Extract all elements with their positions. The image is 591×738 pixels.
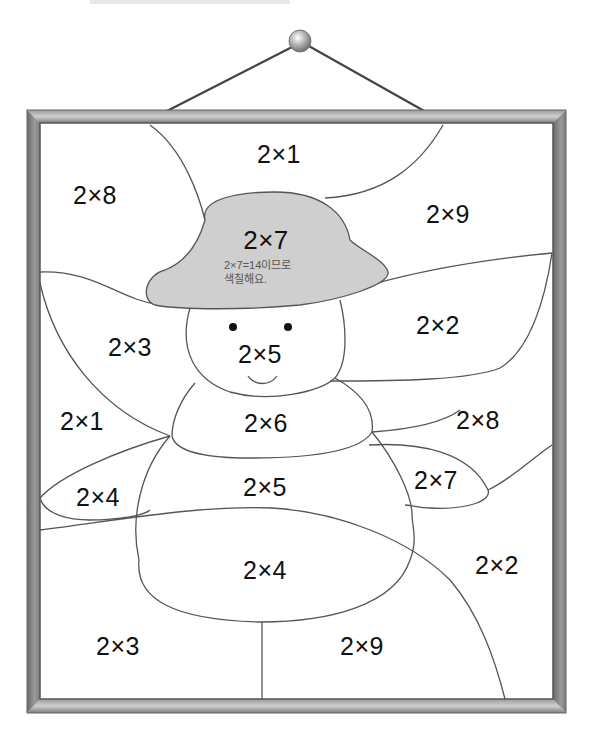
region-label-top-center[interactable]: 2×1 xyxy=(257,140,301,169)
region-label-right-lower[interactable]: 2×2 xyxy=(475,551,519,580)
region-label-right-mid[interactable]: 2×8 xyxy=(456,406,500,435)
picture-artwork xyxy=(0,0,591,738)
region-label-top-right[interactable]: 2×9 xyxy=(426,200,470,229)
hanger xyxy=(165,30,426,112)
left-eye-icon xyxy=(229,323,237,331)
right-eye-icon xyxy=(284,323,292,331)
region-label-left-arm-upper[interactable]: 2×3 xyxy=(108,333,152,362)
region-label-left-mid[interactable]: 2×1 xyxy=(60,407,104,436)
hat-region-label[interactable]: 2×7 xyxy=(243,225,289,256)
region-label-right-upper[interactable]: 2×2 xyxy=(416,311,460,340)
hat-hint-line-2: 색칠해요. xyxy=(224,272,267,286)
region-label-face[interactable]: 2×5 xyxy=(238,340,282,369)
region-label-top-left[interactable]: 2×8 xyxy=(73,181,117,210)
region-label-left-hand[interactable]: 2×4 xyxy=(76,483,120,512)
coloring-puzzle: 2×1 2×8 2×9 2×3 2×5 2×2 2×1 2×6 2×8 2×4 … xyxy=(0,0,591,738)
region-label-body-upper[interactable]: 2×5 xyxy=(243,473,287,502)
pin-icon xyxy=(289,30,311,52)
region-label-right-hand[interactable]: 2×7 xyxy=(414,466,458,495)
region-label-body-lower[interactable]: 2×4 xyxy=(243,556,287,585)
region-label-bottom-left[interactable]: 2×3 xyxy=(96,632,140,661)
hat-hint-line-1: 2×7=14이므로 xyxy=(224,258,291,272)
region-label-neck[interactable]: 2×6 xyxy=(244,409,288,438)
region-label-bottom-right[interactable]: 2×9 xyxy=(340,632,384,661)
